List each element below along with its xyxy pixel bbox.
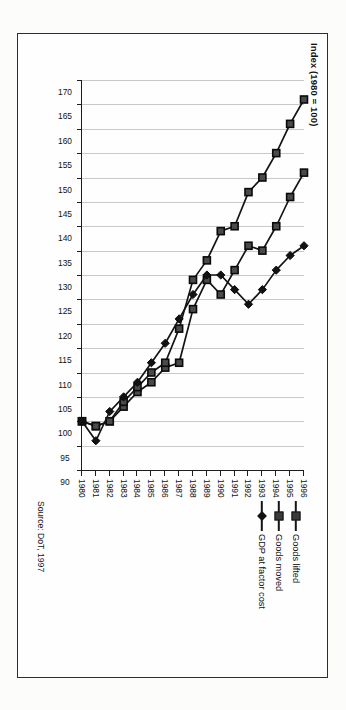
legend-label-goods-moved: Goods moved [274,531,284,591]
square-marker-icon [273,223,280,230]
square-marker-icon [203,257,210,264]
square-marker-icon [148,369,155,376]
square-marker-icon [301,96,308,103]
square-marker-icon [176,325,183,332]
square-marker-icon [217,228,224,235]
scanned-page: Index (1980 = 100) Source: DoT, 1997 909… [0,0,346,710]
series-gdp-at-factor-cost [78,242,308,445]
square-marker-icon [301,169,308,176]
square-marker-icon [176,359,183,366]
square-marker-icon [259,174,266,181]
square-marker-icon [231,223,238,230]
square-marker-icon [245,242,252,249]
series-line [82,173,304,427]
chart-legend: Goods lifted Goods moved GDP at factor c… [253,501,304,671]
legend-entry-goods-lifted: Goods lifted [288,501,304,671]
legend-label-gdp: GDP at factor cost [257,531,267,609]
legend-label-goods-lifted: Goods lifted [291,531,301,583]
square-marker-icon [245,189,252,196]
chart-stage: Index (1980 = 100) Source: DoT, 1997 909… [17,33,328,678]
square-marker-icon [162,359,169,366]
legend-entry-gdp: GDP at factor cost [254,501,270,671]
series-line [82,246,304,441]
square-marker-icon [287,194,294,201]
square-marker-icon [148,379,155,386]
square-marker-icon [259,247,266,254]
series-goods-moved [79,96,308,430]
square-marker-icon [190,306,197,313]
square-marker-icon [190,276,197,283]
series-line [82,100,304,427]
square-marker-icon [287,120,294,127]
square-marker-icon [272,501,286,531]
series-goods-lifted [79,169,308,430]
square-marker-icon [231,267,238,274]
square-marker-icon [289,501,303,531]
diamond-marker-icon [255,501,269,531]
square-marker-icon [273,150,280,157]
square-marker-icon [106,418,113,425]
square-marker-icon [217,291,224,298]
legend-entry-goods-moved: Goods moved [271,501,287,671]
square-marker-icon [92,423,99,430]
